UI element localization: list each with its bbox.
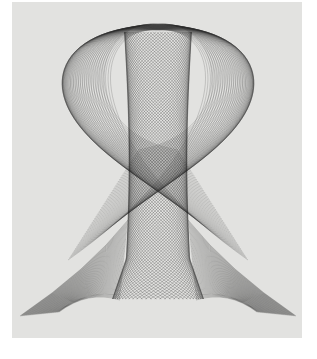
flared-base-curves: [20, 220, 296, 316]
central-column-curves: [112, 32, 203, 299]
outer-bulb-curves: [62, 24, 254, 260]
harmonograph-figure: [0, 0, 317, 359]
